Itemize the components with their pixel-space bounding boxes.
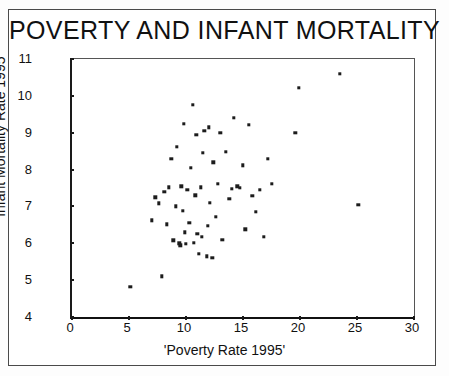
scatter-points-layer [72,59,414,317]
data-point [128,285,131,288]
data-point [258,188,261,191]
data-point [247,123,250,126]
data-point [232,116,235,119]
y-tick-mark [70,169,74,171]
data-point [188,221,191,224]
x-axis-title: 'Poverty Rate 1995' [0,342,449,358]
y-tick-label: 4 [25,309,32,324]
y-tick-mark [70,242,74,244]
data-point [179,243,182,246]
data-point [163,190,166,193]
data-point [356,203,359,206]
data-point [193,194,196,197]
data-point [254,210,257,213]
data-point [211,256,214,259]
data-point [338,72,341,75]
data-point [195,133,198,136]
y-tick-label: 6 [25,235,32,250]
data-point [221,238,224,241]
data-point [181,209,184,212]
x-tick-label: 10 [177,320,191,335]
y-tick-mark [70,95,74,97]
data-point [207,125,210,128]
y-tick-label: 11 [19,51,33,66]
data-point [230,187,233,190]
data-point [218,131,221,134]
data-point [169,157,172,160]
data-point [180,184,183,187]
data-point [197,252,200,255]
x-tick-label: 20 [291,320,305,335]
data-point [241,163,244,166]
data-point [294,131,297,134]
data-point [262,235,265,238]
y-tick-mark [70,58,74,60]
data-point [174,205,177,208]
data-point [189,166,192,169]
data-point [191,103,194,106]
data-point [165,222,168,225]
y-tick-label: 7 [25,198,32,213]
y-tick-label: 10 [18,87,32,102]
data-point [182,122,185,125]
data-point [183,231,186,234]
data-point [244,228,247,231]
data-point [167,186,170,189]
y-tick-label: 5 [25,272,32,287]
x-tick-label: 25 [348,320,362,335]
data-point [250,194,253,197]
y-axis-title: 'Infant Mortality Rate 1995 [0,0,8,298]
x-tick-label: 30 [405,320,419,335]
data-point [216,182,219,185]
y-tick-mark [70,279,74,281]
chart-title: POVERTY AND INFANT MORTALITY [0,16,449,45]
data-point [203,129,206,132]
data-point [196,232,199,235]
plot-area [70,58,415,319]
data-point [160,275,163,278]
x-tick-label: 15 [234,320,248,335]
y-tick-mark [70,132,74,134]
data-point [266,157,269,160]
figure-container: POVERTY AND INFANT MORTALITY 4567891011 … [0,0,449,376]
data-point [270,182,273,185]
data-point [206,224,209,227]
data-point [199,186,202,189]
x-tick-label: 0 [66,320,73,335]
data-point [297,86,300,89]
data-point [157,202,160,205]
data-point [224,150,227,153]
data-point [175,145,178,148]
data-point [212,160,215,163]
data-point [172,239,175,242]
data-point [214,215,217,218]
data-point [238,186,241,189]
data-point [228,197,231,200]
data-point [200,235,203,238]
data-point [150,219,153,222]
data-point [205,254,208,257]
data-point [185,188,188,191]
data-point [208,201,211,204]
data-point [154,196,157,199]
data-point [184,242,187,245]
x-tick-label: 5 [123,320,130,335]
y-tick-mark [70,205,74,207]
data-point [201,151,204,154]
data-point [192,241,195,244]
y-tick-label: 8 [25,161,32,176]
y-tick-label: 9 [25,124,32,139]
